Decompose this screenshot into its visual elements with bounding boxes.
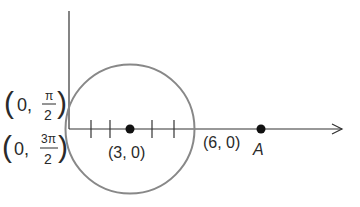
svg-text:0,: 0,: [17, 95, 32, 115]
svg-text:2: 2: [44, 151, 52, 167]
svg-text:(: (: [4, 86, 14, 119]
lower-left-label: ( 0, 3π 2 ): [2, 130, 68, 167]
center-label: (3, 0): [108, 144, 145, 161]
svg-text:2: 2: [44, 107, 52, 123]
svg-text:0,: 0,: [14, 139, 29, 159]
svg-text:π: π: [45, 89, 53, 103]
svg-text:): ): [58, 130, 68, 163]
point-a: [257, 125, 266, 134]
svg-text:3π: 3π: [41, 132, 56, 146]
point-a-label: A: [252, 141, 264, 158]
intersection-label: (6, 0): [203, 134, 240, 151]
center-point: [126, 125, 135, 134]
diagram-canvas: (3, 0) (6, 0) A ( 0, π 2 ) ( 0, 3π 2 ): [0, 0, 360, 207]
upper-left-label: ( 0, π 2 ): [4, 86, 67, 123]
svg-text:(: (: [2, 130, 12, 163]
svg-text:): ): [57, 86, 67, 119]
